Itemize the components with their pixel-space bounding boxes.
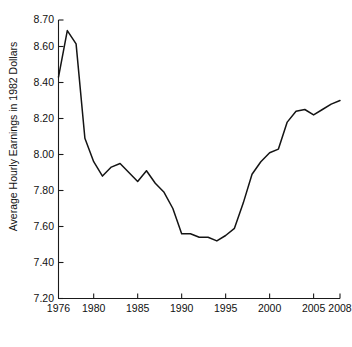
x-axis-ticks <box>94 294 340 299</box>
data-series-line <box>59 31 341 241</box>
axis-lines <box>58 20 340 299</box>
